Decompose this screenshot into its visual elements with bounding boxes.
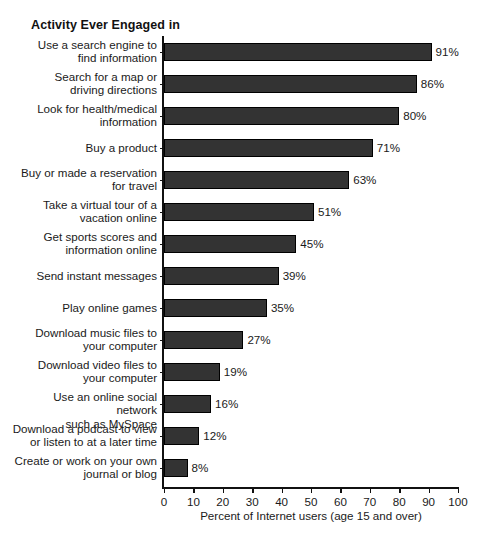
bar-row[interactable]: Download a podcast to viewor listen to a…	[164, 422, 458, 451]
bar-row[interactable]: Create or work on your ownjournal or blo…	[164, 454, 458, 483]
x-axis-tick-label: 10	[187, 495, 200, 508]
bar-row[interactable]: Use a search engine tofind information91…	[164, 38, 458, 67]
bar-row[interactable]: Get sports scores andinformation online4…	[164, 230, 458, 259]
bar-category-label: Download music files toyour computer	[11, 326, 157, 353]
bar-value-label: 51%	[314, 204, 341, 219]
x-axis-tick	[458, 487, 459, 493]
chart-title: Activity Ever Engaged in	[31, 18, 180, 32]
bar-category-label: Get sports scores andinformation online	[11, 230, 157, 257]
bar-category-label: Download video files toyour computer	[11, 358, 157, 385]
bar-value-label: 45%	[296, 236, 323, 251]
x-axis-tick-label: 50	[305, 495, 318, 508]
x-axis-tick-label: 80	[393, 495, 406, 508]
bar[interactable]	[164, 171, 349, 189]
bar[interactable]	[164, 299, 267, 317]
bar-category-label: Search for a map ordriving directions	[11, 70, 157, 97]
plot-area: Use a search engine tofind information91…	[164, 38, 458, 487]
bar-value-label: 91%	[432, 44, 459, 59]
bar-category-label: Buy or made a reservationfor travel	[11, 166, 157, 193]
bar-row[interactable]: Send instant messages39%	[164, 262, 458, 291]
bar[interactable]	[164, 43, 432, 61]
bar-value-label: 35%	[267, 300, 294, 315]
bar-row[interactable]: Use an online social networksuch as MySp…	[164, 390, 458, 419]
x-axis-tick-label: 40	[275, 495, 288, 508]
bar[interactable]	[164, 459, 188, 477]
x-axis-tick-label: 100	[448, 495, 467, 508]
bar-value-label: 63%	[349, 172, 376, 187]
bar-category-label: Use a search engine tofind information	[11, 38, 157, 65]
bar-category-label: Send instant messages	[11, 269, 157, 282]
bar-row[interactable]: Play online games35%	[164, 294, 458, 323]
bar-value-label: 16%	[211, 396, 238, 411]
x-axis-tick	[282, 487, 283, 493]
bar-category-label: Play online games	[11, 301, 157, 314]
bar-category-label: Create or work on your ownjournal or blo…	[11, 454, 157, 481]
bar-value-label: 71%	[373, 140, 400, 155]
x-axis-tick-label: 60	[334, 495, 347, 508]
x-axis-tick	[252, 487, 253, 493]
x-axis-tick	[340, 487, 341, 493]
x-axis-tick	[311, 487, 312, 493]
bar[interactable]	[164, 75, 417, 93]
bar[interactable]	[164, 363, 220, 381]
bar[interactable]	[164, 395, 211, 413]
x-axis-tick	[223, 487, 224, 493]
bar-category-label: Download a podcast to viewor listen to a…	[11, 422, 157, 449]
bar-row[interactable]: Download music files toyour computer27%	[164, 326, 458, 355]
bar-value-label: 8%	[188, 460, 209, 475]
bar-chart: Activity Ever Engaged in Use a search en…	[0, 0, 488, 533]
bar[interactable]	[164, 203, 314, 221]
bar-category-label: Buy a product	[11, 141, 157, 154]
bar-value-label: 19%	[220, 364, 247, 379]
bar-category-label: Look for health/medicalinformation	[11, 102, 157, 129]
bar-row[interactable]: Take a virtual tour of avacation online5…	[164, 198, 458, 227]
bar-value-label: 27%	[243, 332, 270, 347]
bar-value-label: 12%	[199, 428, 226, 443]
x-axis-tick-label: 20	[216, 495, 229, 508]
x-axis-caption: Percent of Internet users (age 15 and ov…	[164, 509, 458, 522]
bar-row[interactable]: Buy or made a reservationfor travel63%	[164, 166, 458, 195]
bar-row[interactable]: Look for health/medicalinformation80%	[164, 102, 458, 131]
bar-value-label: 39%	[279, 268, 306, 283]
x-axis-tick-label: 90	[422, 495, 435, 508]
bar[interactable]	[164, 331, 243, 349]
bar-value-label: 86%	[417, 76, 444, 91]
x-axis-tick	[429, 487, 430, 493]
bar[interactable]	[164, 107, 399, 125]
bar[interactable]	[164, 139, 373, 157]
x-axis-tick	[370, 487, 371, 493]
x-axis-tick	[399, 487, 400, 493]
x-axis-tick-label: 0	[161, 495, 167, 508]
bar-row[interactable]: Search for a map ordriving directions86%	[164, 70, 458, 99]
x-axis-tick	[164, 487, 165, 493]
bar-value-label: 80%	[399, 108, 426, 123]
x-axis-tick-label: 70	[363, 495, 376, 508]
x-axis-tick	[193, 487, 194, 493]
bar-category-label: Take a virtual tour of avacation online	[11, 198, 157, 225]
bar-row[interactable]: Download video files toyour computer19%	[164, 358, 458, 387]
bar[interactable]	[164, 235, 296, 253]
x-axis-tick-label: 30	[246, 495, 259, 508]
bar[interactable]	[164, 267, 279, 285]
bar-row[interactable]: Buy a product71%	[164, 134, 458, 163]
bar[interactable]	[164, 427, 199, 445]
